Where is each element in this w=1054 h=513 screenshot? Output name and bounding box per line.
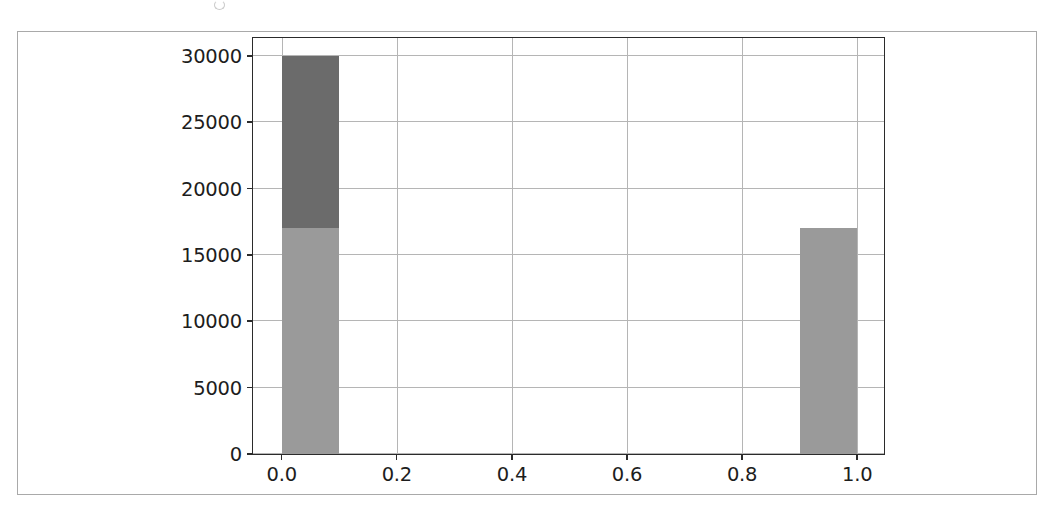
gridline-y-2 [253,320,884,321]
gridline-x-2 [512,38,513,454]
y-tick-label-3: 15000 [181,243,242,266]
y-tick-label-1: 5000 [193,376,242,399]
x-tick-mark-2 [511,454,513,460]
gridline-y-0 [253,453,884,454]
gridline-y-6 [253,55,884,56]
y-tick-mark-4 [247,188,253,190]
gridline-y-1 [253,387,884,388]
plot-axes: 050001000015000200002500030000 0.00.20.4… [252,37,885,455]
y-tick-mark-5 [247,121,253,123]
x-tick-mark-1 [396,454,398,460]
gridline-x-5 [857,38,858,454]
x-tick-mark-4 [741,454,743,460]
gridline-x-3 [627,38,628,454]
y-tick-label-2: 10000 [181,310,242,333]
y-tick-mark-1 [247,387,253,389]
y-tick-label-5: 25000 [181,111,242,134]
gridline-x-4 [742,38,743,454]
x-tick-label-5: 1.0 [842,463,872,486]
x-tick-mark-3 [626,454,628,460]
y-tick-mark-6 [247,55,253,57]
bar-zero-lower-segment [282,228,340,454]
x-tick-label-3: 0.6 [612,463,642,486]
x-tick-label-4: 0.8 [727,463,757,486]
plot-area [253,38,884,454]
x-tick-label-1: 0.2 [382,463,412,486]
y-tick-mark-3 [247,254,253,256]
gridline-y-5 [253,121,884,122]
bar-zero-upper-segment [282,56,340,229]
y-tick-label-4: 20000 [181,177,242,200]
gridline-y-3 [253,254,884,255]
chart-figure: 050001000015000200002500030000 0.00.20.4… [0,0,1054,513]
gridline-y-4 [253,188,884,189]
bar-one-lower-segment [800,228,858,454]
y-tick-label-6: 30000 [181,44,242,67]
y-tick-mark-2 [247,320,253,322]
x-tick-label-2: 0.4 [497,463,527,486]
x-tick-label-0: 0.0 [267,463,297,486]
y-tick-label-0: 0 [230,443,242,466]
y-tick-mark-0 [247,453,253,455]
x-tick-mark-0 [281,454,283,460]
x-tick-mark-5 [856,454,858,460]
gridline-x-1 [397,38,398,454]
